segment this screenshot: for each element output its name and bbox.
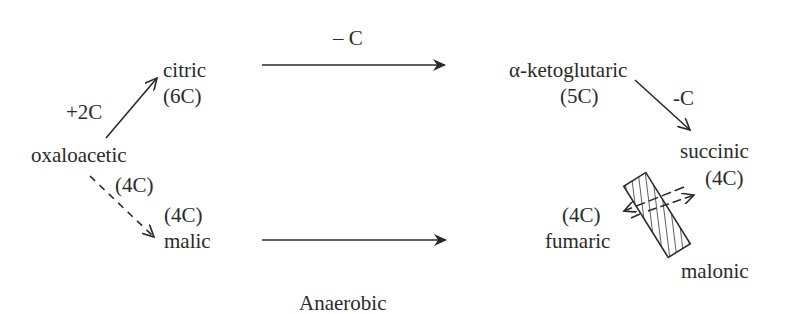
node-citric-name: citric bbox=[163, 60, 206, 81]
node-ketoglutaric-carbons: (5C) bbox=[560, 86, 599, 107]
node-oxaloacetic-name: oxaloacetic bbox=[31, 145, 127, 166]
edge-label-plus-2c: +2C bbox=[66, 102, 102, 123]
edge-label-minus-c-top: – C bbox=[333, 28, 363, 49]
node-fumaric-name: fumaric bbox=[545, 231, 610, 252]
arrow-fumaric-dash bbox=[631, 214, 640, 218]
node-citric-carbons: (6C) bbox=[163, 86, 202, 107]
node-succinic-name: succinic bbox=[680, 141, 749, 162]
node-oxaloacetic-carbons: (4C) bbox=[115, 175, 154, 196]
caption-anaerobic: Anaerobic bbox=[299, 293, 386, 314]
node-ketoglutaric-name: α-ketoglutaric bbox=[509, 60, 627, 81]
malonic-block-icon bbox=[624, 172, 691, 257]
node-malic-carbons: (4C) bbox=[164, 205, 203, 226]
edge-label-minus-c-right: -C bbox=[673, 88, 694, 109]
node-malic-name: malic bbox=[164, 231, 211, 252]
arrow-oxaloacetic-to-citric bbox=[106, 78, 157, 138]
node-succinic-carbons: (4C) bbox=[705, 168, 744, 189]
node-fumaric-carbons: (4C) bbox=[562, 205, 601, 226]
inhibitor-malonic: malonic bbox=[681, 261, 749, 282]
